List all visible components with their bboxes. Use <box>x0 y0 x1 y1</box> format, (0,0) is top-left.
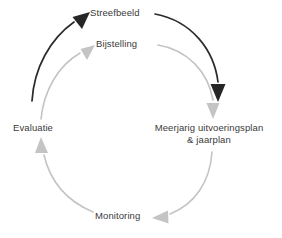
node-label-evaluatie: Evaluatie <box>13 122 53 134</box>
node-label-plan: Meerjarig uitvoeringsplan & jaarplan <box>142 122 276 145</box>
node-label-plan-line1: Meerjarig uitvoeringsplan <box>142 122 276 134</box>
node-label-streefbeeld: Streefbeeld <box>90 7 140 19</box>
node-label-bijstelling: Bijstelling <box>96 38 137 50</box>
arrow-streefbeeld-to-plan <box>155 14 226 102</box>
arrow-evaluatie-to-bijstelling <box>41 45 95 119</box>
node-label-monitoring: Monitoring <box>95 210 140 222</box>
node-label-plan-line2: & jaarplan <box>142 134 276 146</box>
cycle-arrows-svg <box>0 0 282 238</box>
cycle-diagram: Streefbeeld Bijstelling Meerjarig uitvoe… <box>0 0 282 238</box>
arrow-monitoring-to-evaluatie <box>35 137 93 212</box>
arrow-plan-to-monitoring <box>152 152 212 224</box>
arrow-evaluatie-to-streefbeeld <box>32 12 90 101</box>
